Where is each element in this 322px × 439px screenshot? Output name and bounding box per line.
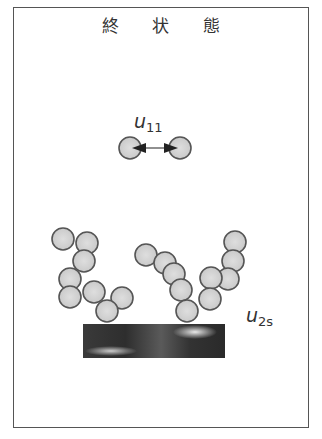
left-chain-particle xyxy=(59,286,81,308)
right-chain-particle xyxy=(200,267,222,289)
left-chain-particle xyxy=(96,300,118,322)
left-chain-particle xyxy=(73,250,95,272)
middle-chain-particle xyxy=(176,300,198,322)
substrate xyxy=(83,324,225,358)
middle-chain-particle xyxy=(170,279,192,301)
left-chain-particle xyxy=(52,228,74,250)
right-chain-particle xyxy=(199,288,221,310)
particles xyxy=(52,137,246,322)
u2s-label: u2s xyxy=(246,304,273,329)
left-chain-particle xyxy=(83,281,105,303)
diagram-scene xyxy=(0,0,322,439)
u11-label: u11 xyxy=(134,110,163,135)
